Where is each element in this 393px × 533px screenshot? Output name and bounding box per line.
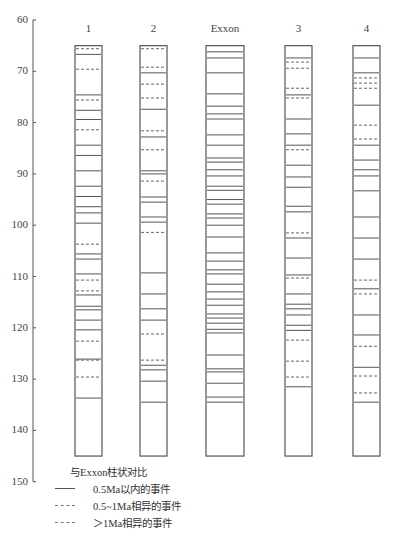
legend-label: ＞1Ma相异的事件 [93, 515, 172, 530]
column-1 [75, 46, 102, 456]
y-tick-label: 100 [0, 218, 28, 230]
y-tick-label: 130 [0, 372, 28, 384]
y-tick-label: 150 [0, 475, 28, 487]
legend-label: 0.5~1Ma相异的事件 [93, 498, 181, 513]
column-label: 3 [275, 22, 322, 34]
column-label: 1 [65, 22, 112, 34]
y-tick-label: 70 [0, 64, 28, 76]
column-exxon [206, 46, 244, 456]
y-tick-label: 110 [0, 270, 28, 282]
column-label: 2 [130, 22, 177, 34]
y-tick-label: 80 [0, 116, 28, 128]
column-4 [353, 46, 380, 456]
solid-line-icon [55, 488, 75, 489]
legend-label: 0.5Ma以内的事件 [93, 481, 170, 496]
column-label: Exxon [196, 22, 254, 34]
column-label: 4 [343, 22, 390, 34]
column-2 [140, 46, 167, 456]
y-tick-label: 120 [0, 321, 28, 333]
y-tick-label: 90 [0, 167, 28, 179]
y-tick-label: 60 [0, 13, 28, 25]
dashed-line-icon [55, 522, 75, 523]
legend-title: 与Exxon柱状对比 [70, 464, 147, 479]
chart-canvas [0, 0, 393, 533]
dashed-line-icon [55, 505, 75, 506]
column-3 [285, 46, 312, 456]
y-tick-label: 140 [0, 423, 28, 435]
